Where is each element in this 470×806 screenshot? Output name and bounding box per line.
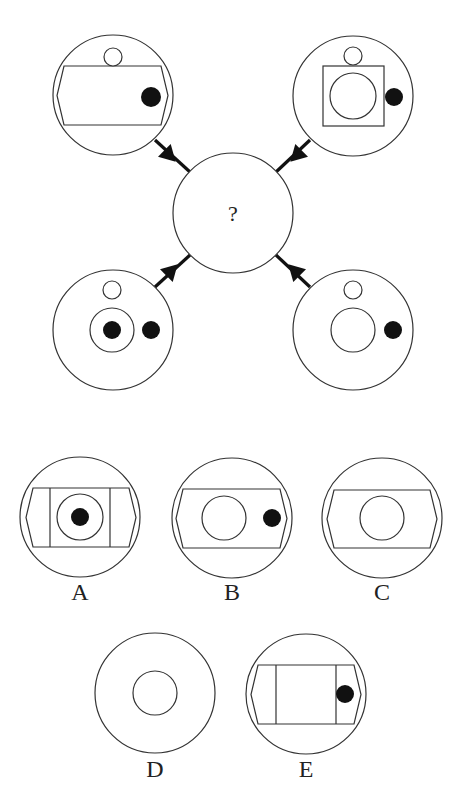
small-hollow-circle xyxy=(344,47,362,65)
stem-figure-bottom-left xyxy=(53,270,173,390)
option-e[interactable]: E xyxy=(246,634,366,782)
filled-dot xyxy=(141,87,161,107)
filled-dot xyxy=(384,321,402,339)
answer-options: ABCDE xyxy=(20,457,442,782)
stem-figure-top-right xyxy=(293,36,413,156)
filled-dot xyxy=(263,509,281,527)
center-unknown-figure: ? xyxy=(173,153,293,273)
filled-dot xyxy=(385,88,403,106)
filled-dot xyxy=(71,508,89,526)
small-hollow-circle xyxy=(104,48,122,66)
puzzle-diagram: ? ABCDE xyxy=(0,0,470,806)
filled-dot xyxy=(142,321,160,339)
option-label: E xyxy=(299,756,314,782)
connector-bottom-right xyxy=(276,255,310,287)
question-mark: ? xyxy=(228,201,238,226)
stem-figure-bottom-right xyxy=(293,270,413,390)
option-label: B xyxy=(224,579,240,605)
connector-top-right xyxy=(276,140,310,172)
outer-circle xyxy=(95,633,215,753)
option-d[interactable]: D xyxy=(95,633,215,782)
filled-dot xyxy=(336,685,354,703)
connector-top-left xyxy=(155,140,190,172)
option-label: A xyxy=(71,579,89,605)
option-b[interactable]: B xyxy=(172,458,292,605)
option-c[interactable]: C xyxy=(322,458,442,605)
option-label: C xyxy=(374,579,390,605)
small-hollow-circle xyxy=(344,281,362,299)
stem-figure-top-left xyxy=(53,35,173,155)
option-label: D xyxy=(146,756,163,782)
small-hollow-circle xyxy=(103,281,121,299)
connector-bottom-left xyxy=(155,255,190,287)
option-a[interactable]: A xyxy=(20,457,140,605)
arrowhead-icon xyxy=(284,144,308,168)
filled-dot xyxy=(103,321,121,339)
outer-circle xyxy=(322,458,442,578)
